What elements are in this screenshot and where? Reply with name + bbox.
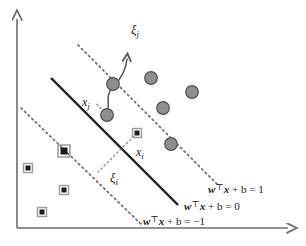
data-point-square-support — [58, 145, 70, 157]
connector-xi-perpendicular — [98, 133, 137, 172]
data-point-circle-xj — [101, 109, 114, 122]
eq-decision-boundary: w⊤x + b = 0 — [184, 199, 240, 213]
positive-margin-line — [78, 45, 218, 185]
data-point-square — [38, 208, 47, 217]
data-point-circle — [157, 102, 170, 115]
square-markers-group — [24, 129, 142, 217]
data-point-circle — [186, 86, 199, 99]
data-point-circle — [107, 78, 120, 91]
axes-group — [17, 19, 288, 228]
eq-positive-margin: w⊤x + b = 1 — [208, 182, 264, 196]
label-slack-j: ξj — [131, 22, 140, 39]
boundary-lines-group — [21, 45, 218, 224]
eq-negative-margin: w⊤x + b = −1 — [143, 214, 205, 228]
decision-boundary-line — [51, 78, 178, 205]
data-point-square — [60, 186, 69, 195]
negative-margin-line — [21, 108, 141, 224]
circle-markers-group — [101, 72, 199, 151]
label-xj: xj — [81, 95, 90, 111]
data-point-circle-support — [165, 138, 178, 151]
label-slack-i: ξi — [110, 170, 119, 187]
svm-diagram-canvas: xj xi ξj ξi w⊤x + b = 1 w⊤x + b = 0 — [0, 0, 306, 246]
data-point-square — [24, 164, 33, 173]
data-point-circle — [145, 72, 158, 85]
svm-margin-diagram: xj xi ξj ξi w⊤x + b = 1 w⊤x + b = 0 — [0, 0, 306, 246]
label-xi: xi — [135, 145, 144, 161]
